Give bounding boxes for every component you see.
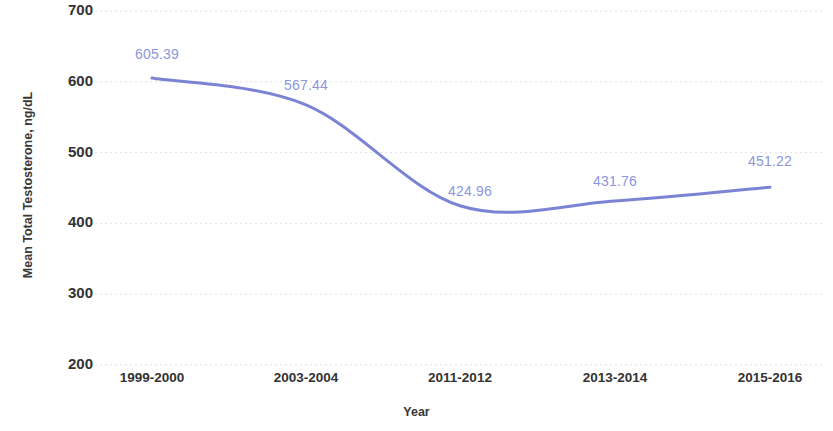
x-axis-title: Year [0,405,833,419]
y-axis-tick-label: 300 [33,284,93,301]
data-point-label: 431.76 [555,173,675,189]
chart-canvas [0,0,833,431]
y-axis-tick-label: 600 [33,72,93,89]
y-axis-tick-label: 700 [33,1,93,18]
line-chart: Mean Total Testosterone, ng/dL Year 7006… [0,0,833,431]
y-axis-title: Mean Total Testosterone, ng/dL [21,60,35,310]
y-axis-tick-label: 500 [33,143,93,160]
data-point-label: 567.44 [246,77,366,93]
x-axis-tick-label: 2015-2016 [700,370,833,385]
data-point-label: 424.96 [410,183,530,199]
y-axis-tick-label: 400 [33,213,93,230]
x-axis-tick-label: 2003-2004 [236,370,376,385]
data-point-label: 451.22 [710,153,830,169]
x-axis-tick-label: 2013-2014 [545,370,685,385]
x-axis-tick-label: 1999-2000 [82,370,222,385]
data-point-label: 605.39 [97,46,217,62]
x-axis-tick-label: 2011-2012 [390,370,530,385]
